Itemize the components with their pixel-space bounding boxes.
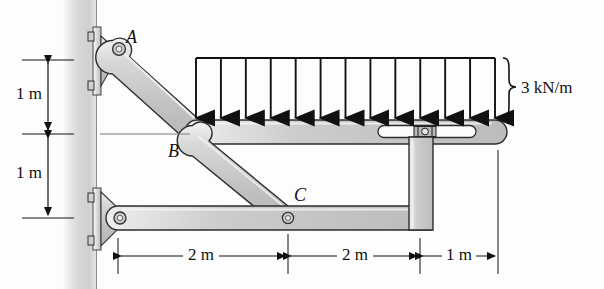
- pin-joint-a: [113, 43, 126, 56]
- horizontal-dimension-label-1: 2 m: [183, 245, 219, 265]
- pin-joint-lower-wall: [114, 212, 126, 224]
- horizontal-dimension-label-3: 1 m: [442, 245, 476, 265]
- distributed-load-arrows: [196, 58, 495, 118]
- pin-joint-c: [282, 212, 293, 223]
- bottom-beam: [106, 206, 432, 230]
- vertical-dimension-label-2: 1 m: [16, 163, 42, 183]
- label-point-c: C: [294, 185, 306, 206]
- load-brace: [503, 58, 516, 117]
- horizontal-dimension-label-2: 2 m: [337, 245, 373, 265]
- slider-slot: [378, 126, 476, 138]
- right-column: [409, 137, 433, 230]
- label-point-a: A: [126, 27, 137, 48]
- label-point-b: B: [168, 141, 179, 162]
- vertical-dimension-label-1: 1 m: [16, 84, 42, 104]
- load-magnitude-label: 3 kN/m: [521, 78, 572, 98]
- wall: [62, 0, 97, 289]
- mechanics-diagram: [0, 0, 604, 289]
- figure-canvas: A B C 3 kN/m 1 m 1 m 2 m 2 m 1 m: [0, 0, 604, 289]
